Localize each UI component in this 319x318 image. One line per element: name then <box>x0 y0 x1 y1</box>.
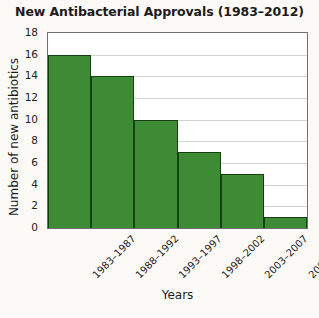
x-tick-label: 1983–1987 <box>90 233 137 280</box>
x-axis-title: Years <box>47 288 308 302</box>
bar-chart-figure: New Antibacterial Approvals (1983–2012) … <box>0 0 319 318</box>
y-tick-label: 16 <box>25 48 38 60</box>
y-axis-tick-labels: 024681012141618 <box>0 32 43 229</box>
bar <box>134 120 177 228</box>
y-tick-label: 18 <box>25 26 38 38</box>
x-tick-label: 1998–2002 <box>220 233 267 280</box>
x-axis-tick-labels: 1983–19871988–19921993–19971998–20022003… <box>47 229 308 289</box>
y-tick-label: 2 <box>31 199 38 211</box>
y-tick-label: 12 <box>25 91 38 103</box>
x-tick-label: 2003–2007 <box>263 233 310 280</box>
bar <box>91 76 134 228</box>
y-tick-label: 8 <box>31 134 38 146</box>
bars-container <box>48 33 307 228</box>
chart-title: New Antibacterial Approvals (1983–2012) <box>0 4 319 19</box>
bar <box>264 217 307 228</box>
bar <box>178 152 221 228</box>
bar <box>48 55 91 228</box>
y-tick-label: 0 <box>31 221 38 233</box>
y-tick-label: 6 <box>31 156 38 168</box>
x-tick-label: 1988–1992 <box>133 233 180 280</box>
plot-area <box>47 32 308 229</box>
y-tick-label: 14 <box>25 69 38 81</box>
bar <box>221 174 264 228</box>
y-tick-label: 10 <box>25 113 38 125</box>
y-tick-label: 4 <box>31 178 38 190</box>
x-tick-label: 1993–1997 <box>176 233 223 280</box>
